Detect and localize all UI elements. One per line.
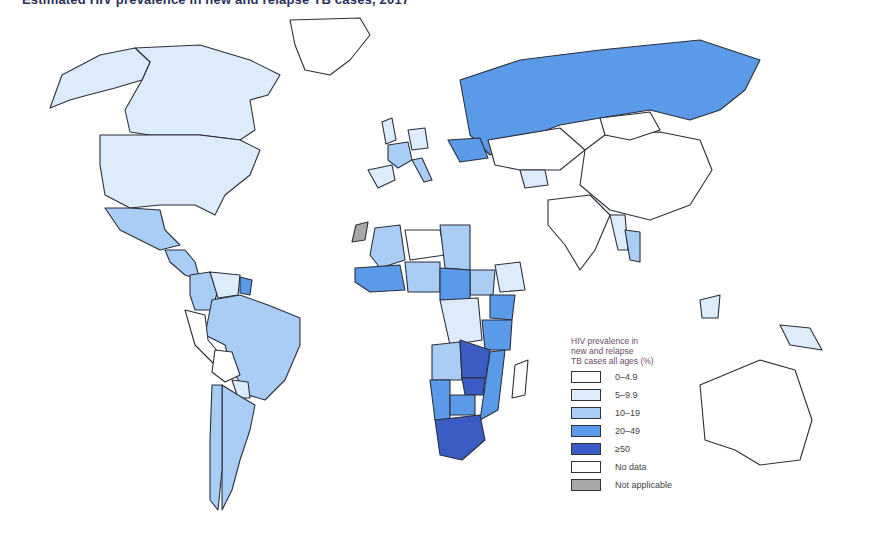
region-botswana [450, 395, 475, 415]
legend-item: 0–4.9 [571, 368, 731, 386]
region-kenya [490, 295, 515, 320]
legend: HIV prevalence in new and relapse TB cas… [571, 336, 731, 494]
region-democratic-republic-of-the-congo [440, 298, 482, 345]
legend-label: Not applicable [615, 480, 672, 490]
region-south-africa [435, 415, 485, 460]
legend-swatch [571, 443, 601, 455]
legend-label: 10–19 [615, 408, 640, 418]
legend-title-line: TB cases all ages (%) [571, 356, 731, 366]
region-france [388, 142, 412, 168]
world-map [0, 0, 896, 543]
legend-swatch [571, 407, 601, 419]
legend-swatch [571, 389, 601, 401]
legend-label: 5–9.9 [615, 390, 638, 400]
legend-item: 20–49 [571, 422, 731, 440]
legend-label: 0–4.9 [615, 372, 638, 382]
region-germany [408, 128, 428, 150]
region-uzbekistan [520, 170, 548, 188]
legend-swatch [571, 479, 601, 491]
region-madagascar [512, 360, 528, 398]
region-western-sahara [352, 222, 368, 242]
region-tanzania [482, 320, 512, 350]
region-chile [210, 385, 222, 510]
region-united-states [100, 135, 260, 215]
region-india [548, 195, 610, 270]
region-spain [368, 165, 395, 188]
region-canada [125, 45, 280, 140]
legend-item: 5–9.9 [571, 386, 731, 404]
legend-swatch [571, 425, 601, 437]
region-cameroon-car [440, 268, 470, 300]
region-papua-new-guinea [780, 325, 822, 350]
region-united-kingdom [382, 118, 396, 144]
region-chad [440, 225, 470, 270]
legend-label: 20–49 [615, 426, 640, 436]
legend-title-line: HIV prevalence in [571, 336, 731, 346]
region-nigeria [405, 262, 440, 292]
region-ukraine [448, 138, 488, 162]
legend-label: ≥50 [615, 444, 630, 454]
region-brazil [205, 295, 300, 400]
region-greenland [290, 18, 370, 75]
region-west-africa-coast [355, 265, 405, 292]
region-argentina [222, 385, 255, 510]
region-niger [405, 230, 445, 260]
region-south-sudan [470, 270, 495, 295]
region-mexico [105, 208, 180, 250]
legend-title-line: new and relapse [571, 346, 731, 356]
region-malaysia-borneo- [700, 295, 720, 318]
region-guyana [240, 277, 252, 295]
region-thailand [625, 230, 640, 262]
region-ethiopia [495, 262, 525, 292]
legend-item: ≥50 [571, 440, 731, 458]
region-mali [370, 225, 405, 268]
legend-item: Not applicable [571, 476, 731, 494]
legend-item: No data [571, 458, 731, 476]
legend-label: No data [615, 462, 647, 472]
region-italy [412, 158, 432, 182]
legend-item: 10–19 [571, 404, 731, 422]
region-zimbabwe [462, 378, 485, 395]
legend-swatch [571, 371, 601, 383]
legend-title: HIV prevalence in new and relapse TB cas… [571, 336, 731, 366]
legend-swatch [571, 461, 601, 473]
region-angola [432, 342, 462, 380]
region-namibia [430, 380, 450, 420]
